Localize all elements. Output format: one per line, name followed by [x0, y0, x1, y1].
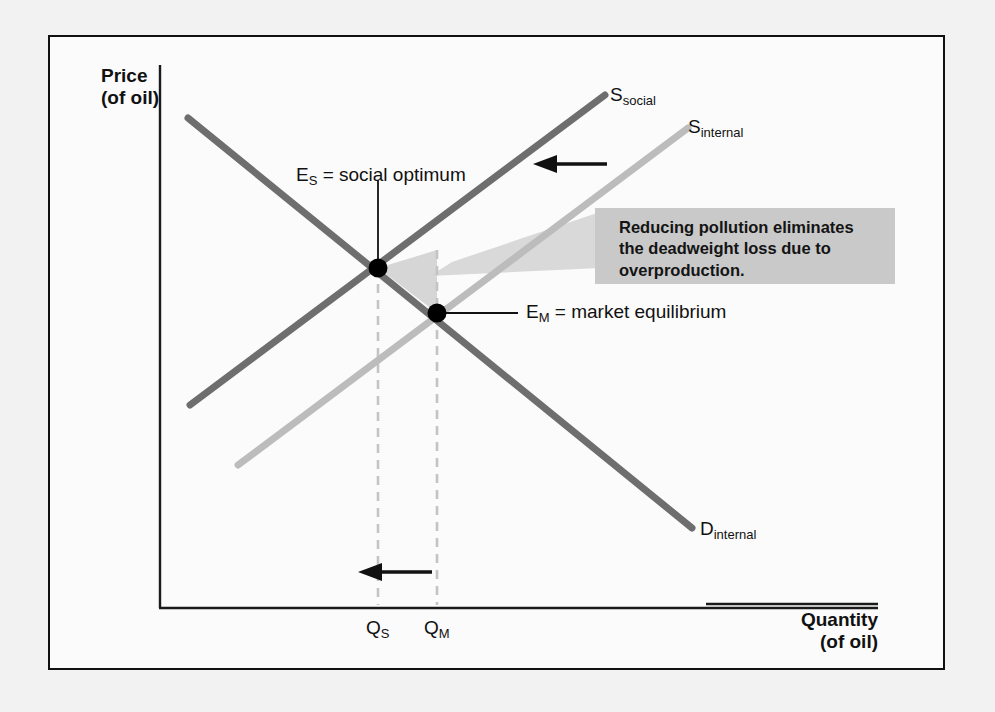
curve-label-supply-social-main: S — [610, 84, 623, 105]
callout-tail — [430, 212, 600, 276]
x-axis-title: Quantity (of oil) — [688, 609, 878, 654]
y-axis-title-line2: (of oil) — [101, 87, 159, 109]
tick-label-q-social: QS — [366, 617, 389, 639]
label-market-equilibrium-main: E — [526, 301, 539, 322]
label-social-optimum-main: E — [296, 164, 309, 185]
curve-label-supply-internal-main: S — [688, 116, 701, 137]
curve-label-supply-internal: Sinternal — [688, 116, 743, 138]
point-social-optimum — [369, 259, 388, 278]
callout-box: Reducing pollution eliminates the deadwe… — [595, 208, 895, 284]
label-social-optimum: ES = social optimum — [296, 164, 466, 186]
y-axis-title-line1: Price — [101, 65, 159, 87]
tick-label-q-market: QM — [424, 617, 450, 639]
curve-label-supply-social-sub: social — [623, 93, 656, 108]
callout-text: Reducing pollution eliminates the deadwe… — [619, 217, 895, 281]
quantity-shift-arrow — [358, 563, 432, 581]
curve-label-demand-internal: Dinternal — [700, 518, 756, 540]
x-axis-title-line1: Quantity — [688, 609, 878, 631]
curve-label-demand-internal-main: D — [700, 518, 714, 539]
tick-label-q-market-main: Q — [424, 617, 439, 638]
supply-shift-arrow — [533, 155, 607, 173]
tick-label-q-social-main: Q — [366, 617, 381, 638]
figure-page: Price (of oil) Quantity (of oil) Ssocial… — [0, 0, 995, 712]
tick-label-q-market-sub: M — [439, 626, 450, 641]
curve-label-supply-social: Ssocial — [610, 84, 656, 106]
label-market-equilibrium-sub: M — [539, 310, 550, 325]
point-market-equilibrium — [428, 304, 447, 323]
tick-label-q-social-sub: S — [381, 626, 390, 641]
label-market-equilibrium: EM = market equilibrium — [526, 301, 726, 323]
label-social-optimum-sub: S — [309, 173, 318, 188]
curve-label-supply-internal-sub: internal — [701, 125, 744, 140]
y-axis-title: Price (of oil) — [101, 65, 159, 110]
label-social-optimum-rest: = social optimum — [317, 164, 465, 185]
x-axis-title-line2: (of oil) — [688, 631, 878, 653]
curve-label-demand-internal-sub: internal — [714, 527, 757, 542]
label-market-equilibrium-rest: = market equilibrium — [550, 301, 727, 322]
